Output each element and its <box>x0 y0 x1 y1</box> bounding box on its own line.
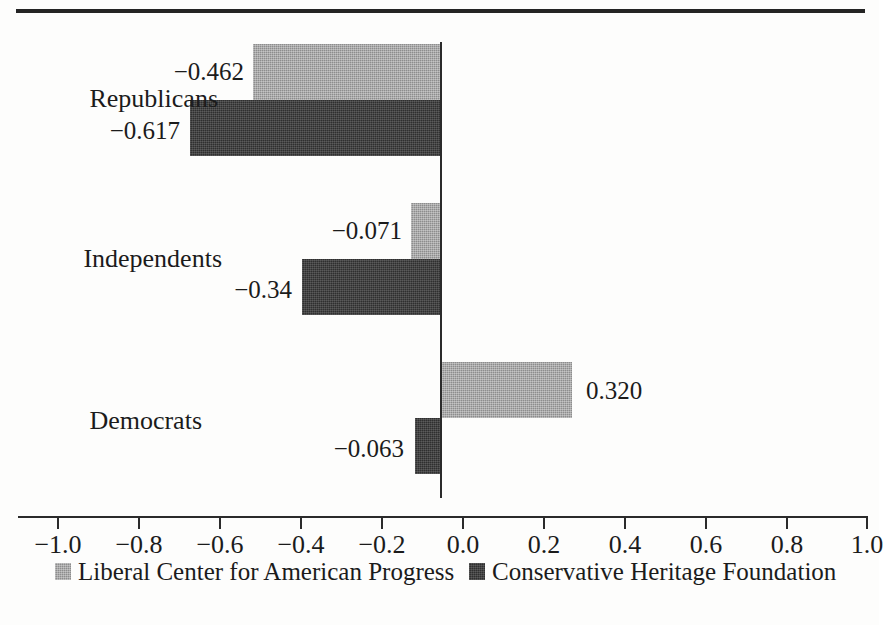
value-label-democrats-liberal: 0.320 <box>586 378 696 403</box>
bar-independents-conservative[interactable] <box>302 259 440 315</box>
category-label-republicans: Republicans <box>0 86 218 112</box>
category-label-democrats: Democrats <box>0 408 202 434</box>
legend-item-liberal[interactable]: Liberal Center for American Progress <box>55 559 454 584</box>
x-tick-mark <box>866 518 868 529</box>
value-label-republicans-conservative: −0.617 <box>72 118 180 143</box>
x-tick-mark <box>705 518 707 529</box>
x-tick-mark <box>219 518 221 529</box>
value-label-independents-conservative: −0.34 <box>188 277 292 302</box>
x-tick-mark <box>786 518 788 529</box>
top-rule-divider <box>16 9 865 13</box>
legend-swatch-icon-liberal <box>55 563 71 580</box>
value-label-republicans-liberal: −0.462 <box>136 59 244 84</box>
zero-axis-line <box>440 42 442 498</box>
legend-label-conservative: Conservative Heritage Foundation <box>492 559 836 584</box>
x-tick-mark <box>300 518 302 529</box>
value-label-democrats-conservative: −0.063 <box>296 436 404 461</box>
x-tick-mark <box>543 518 545 529</box>
plot-area: −0.462 −0.617 −0.071 −0.34 0.320 −0.063 … <box>0 30 879 485</box>
x-axis-line <box>18 516 868 518</box>
bar-democrats-liberal[interactable] <box>442 362 572 418</box>
x-tick-mark <box>462 518 464 529</box>
legend-swatch-icon-conservative <box>469 563 485 580</box>
value-label-independents-liberal: −0.071 <box>294 218 402 243</box>
bar-republicans-conservative[interactable] <box>190 100 440 156</box>
legend-label-liberal: Liberal Center for American Progress <box>78 559 454 584</box>
x-tick-mark <box>57 518 59 529</box>
category-label-independents: Independents <box>0 246 222 272</box>
x-tick-mark <box>381 518 383 529</box>
chart-legend: Liberal Center for American Progress Con… <box>0 555 879 595</box>
bar-independents-liberal[interactable] <box>411 203 440 259</box>
x-tick-mark <box>624 518 626 529</box>
bar-republicans-liberal[interactable] <box>253 44 440 100</box>
bar-democrats-conservative[interactable] <box>415 418 440 474</box>
x-tick-mark <box>138 518 140 529</box>
legend-item-conservative[interactable]: Conservative Heritage Foundation <box>469 559 836 584</box>
